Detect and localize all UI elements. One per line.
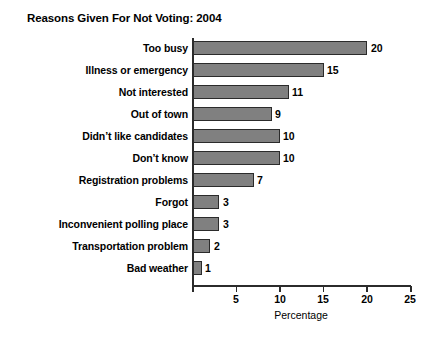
x-axis-tick [192,286,194,292]
chart-row: Bad weather 1 [0,257,431,279]
x-axis-tick-label: 5 [233,293,239,305]
category-label: Transportation problem [72,240,188,252]
x-axis-tick-label: 15 [317,293,329,305]
chart-row: Registration problems 7 [0,169,431,191]
bar-value-label: 2 [214,240,220,252]
category-label: Too busy [143,42,188,54]
bar [193,63,324,77]
chart-row: Transportation problem 2 [0,235,431,257]
bar [193,239,210,253]
x-axis-tick-label: 25 [404,293,416,305]
bar [193,173,254,187]
bar-value-label: 15 [327,64,339,76]
bar [193,129,280,143]
x-axis-tick [236,286,238,292]
category-label: Didn’t like candidates [82,130,188,142]
bar-value-label: 11 [292,86,303,98]
category-label: Don’t know [132,152,188,164]
category-label: Bad weather [127,262,188,274]
bar-value-label: 3 [223,196,229,208]
chart-row: Didn’t like candidates 10 [0,125,431,147]
chart-row: Not interested 11 [0,81,431,103]
bar [193,41,367,55]
chart-row: Don’t know 10 [0,147,431,169]
bar-value-label: 20 [371,42,383,54]
bar-value-label: 10 [283,130,295,142]
chart-row: Illness or emergency 15 [0,59,431,81]
x-axis-tick-label: 20 [361,293,373,305]
bar [193,85,289,99]
x-axis-tick [279,286,281,292]
chart-row: Inconvenient polling place 3 [0,213,431,235]
bar [193,151,280,165]
bar-value-label: 1 [205,262,211,274]
category-label: Illness or emergency [86,64,188,76]
chart-row: Forgot 3 [0,191,431,213]
bar-value-label: 10 [283,152,295,164]
y-axis-line [192,38,194,286]
x-axis-tick [323,286,325,292]
category-label: Inconvenient polling place [59,218,188,230]
category-label: Forgot [155,196,188,208]
x-axis-line [192,285,411,287]
bar-value-label: 9 [275,108,281,120]
x-axis-tick-label: 10 [274,293,286,305]
chart-row: Too busy 20 [0,37,431,59]
bar [193,107,272,121]
x-axis-title: Percentage [274,309,328,321]
bar [193,261,202,275]
chart-row: Out of town 9 [0,103,431,125]
bar-chart-plot-area: Too busy 20 Illness or emergency 15 Not … [0,0,431,343]
category-label: Not interested [119,86,188,98]
x-axis-tick [410,286,412,292]
bar [193,217,219,231]
category-label: Registration problems [79,174,188,186]
x-axis-tick [366,286,368,292]
bar-value-label: 7 [257,174,263,186]
bar [193,195,219,209]
bar-value-label: 3 [223,218,229,230]
category-label: Out of town [131,108,188,120]
